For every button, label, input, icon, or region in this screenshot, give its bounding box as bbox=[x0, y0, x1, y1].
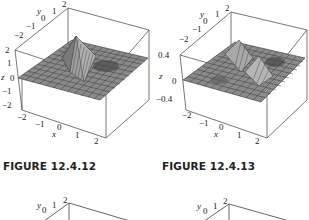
y-axis-label: y bbox=[199, 9, 204, 19]
x-tick: 1 bbox=[75, 130, 80, 140]
x-tick: 0 bbox=[57, 122, 62, 132]
y-tick: 1 bbox=[215, 9, 220, 19]
surface-plot-svg: 2 1 0 y bbox=[155, 196, 309, 220]
y-tick: −1 bbox=[26, 21, 36, 31]
y-tick: 0 bbox=[42, 205, 47, 215]
surface-plot-svg: 2 1 0 y bbox=[0, 196, 155, 220]
y-tick: 1 bbox=[213, 201, 218, 211]
y-axis-label: y bbox=[36, 200, 41, 210]
y-tick: 2 bbox=[63, 196, 68, 205]
y-tick: 1 bbox=[52, 6, 57, 16]
y-tick: 2 bbox=[225, 3, 230, 13]
y-tick: 2 bbox=[62, 0, 67, 9]
figure-caption: FIGURE 12.4.13 bbox=[162, 160, 255, 172]
z-tick: −2 bbox=[2, 100, 12, 110]
surface-plot-12-4-13: 2 1 0 −1 −2 y 0.4 0 −0.4 z −2 −1 0 1 2 x bbox=[155, 0, 309, 145]
x-tick: −2 bbox=[17, 112, 27, 122]
y-axis-label: y bbox=[196, 201, 201, 211]
x-axis-label: x bbox=[213, 129, 218, 139]
x-tick: 1 bbox=[237, 130, 242, 140]
x-tick: 0 bbox=[219, 122, 224, 132]
x-tick: −1 bbox=[199, 118, 209, 128]
y-tick: 1 bbox=[52, 200, 57, 210]
y-tick: −2 bbox=[179, 34, 189, 44]
z-tick: 1 bbox=[7, 58, 12, 68]
surface-plot-svg: 2 1 0 −1 −2 y 0.4 0 −0.4 z −2 −1 0 1 2 x bbox=[155, 0, 309, 145]
x-tick: −2 bbox=[182, 110, 192, 120]
y-tick: 0 bbox=[41, 13, 46, 23]
z-tick: −0.4 bbox=[156, 94, 173, 104]
figure-caption: FIGURE 12.4.12 bbox=[3, 160, 96, 172]
y-tick: 0 bbox=[203, 206, 208, 216]
x-tick: 2 bbox=[255, 136, 260, 145]
y-tick: 2 bbox=[223, 196, 228, 206]
z-tick: 2 bbox=[5, 45, 10, 55]
x-tick: 2 bbox=[94, 136, 99, 145]
z-tick: 0.4 bbox=[158, 50, 170, 60]
z-axis-label: z bbox=[0, 72, 5, 82]
z-tick: 0 bbox=[172, 76, 177, 86]
z-tick: 0 bbox=[10, 73, 15, 83]
z-axis-label: z bbox=[158, 71, 163, 81]
surface-plot-svg: 2 1 0 −1 −2 y 2 1 0 −1 −2 z −2 −1 0 1 2 … bbox=[0, 0, 155, 145]
x-tick: −1 bbox=[35, 119, 45, 129]
z-tick: −1 bbox=[2, 86, 12, 96]
y-tick: −2 bbox=[14, 30, 24, 40]
y-axis-label: y bbox=[36, 6, 41, 16]
surface-plot-partial-right: 2 1 0 y bbox=[155, 196, 309, 220]
x-axis-label: x bbox=[51, 129, 56, 139]
surface-plot-partial-left: 2 1 0 y bbox=[0, 196, 155, 220]
y-tick: −1 bbox=[192, 24, 202, 34]
surface-plot-12-4-12: 2 1 0 −1 −2 y 2 1 0 −1 −2 z −2 −1 0 1 2 … bbox=[0, 0, 155, 145]
